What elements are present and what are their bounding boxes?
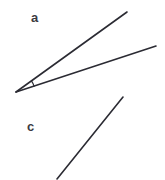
segment-c-label: c — [27, 120, 34, 133]
angle-a-arc — [31, 81, 34, 86]
geometry-figure: a c — [0, 0, 165, 180]
angle-a-label: a — [31, 11, 38, 24]
angle-a-lower-ray — [16, 46, 156, 92]
segment-c-group — [57, 97, 123, 179]
geometry-canvas — [0, 0, 165, 180]
segment-c-line — [57, 97, 123, 179]
